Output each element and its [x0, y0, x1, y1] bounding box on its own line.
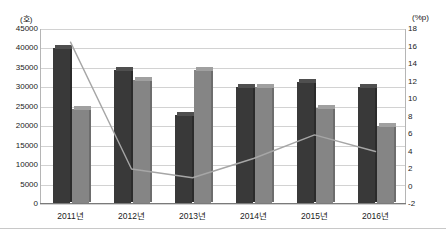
bar-top-cap [55, 45, 72, 49]
bar-top-cap [116, 67, 133, 71]
bar-face [236, 87, 253, 204]
plot-area [40, 29, 406, 204]
bar-top-cap [196, 67, 213, 71]
right-axis-tick-label: 16 [408, 43, 444, 51]
bar-top-cap [74, 106, 91, 110]
bar [297, 82, 314, 205]
bar-face [53, 48, 70, 204]
right-axis-line [405, 29, 406, 204]
gridline [40, 146, 406, 147]
left-axis-tick-label: 30000 [2, 83, 38, 91]
bar [377, 126, 394, 204]
bar-face [175, 115, 192, 204]
gridline [40, 185, 406, 186]
right-axis-tick-label: 4 [408, 148, 444, 156]
bar [358, 87, 375, 204]
bar-face [72, 109, 89, 204]
bar [53, 48, 70, 204]
bar-side [394, 124, 396, 202]
left-axis-tick-label: 45000 [2, 25, 38, 33]
left-axis-tick-label: 0 [2, 200, 38, 208]
bar [316, 108, 333, 204]
category-label: 2013년 [162, 209, 223, 221]
bar-top-cap [379, 123, 396, 127]
bar-face [133, 80, 150, 204]
bar [133, 80, 150, 204]
bar-face [255, 87, 272, 204]
bar-side [333, 106, 335, 202]
right-axis-tick-label: 8 [408, 113, 444, 121]
category-label: 2014년 [223, 209, 284, 221]
category-axis-labels: 2011년2012년2013년2014년2015년2016년 [40, 209, 406, 229]
bar-top-cap [177, 112, 194, 116]
bar-side [272, 85, 274, 202]
right-axis-tick-label: 14 [408, 60, 444, 68]
right-axis-tick-label: 12 [408, 78, 444, 86]
bottom-axis-line [40, 203, 406, 204]
bar [236, 87, 253, 204]
left-axis-tick-label: 40000 [2, 44, 38, 52]
right-axis-tick-label: 18 [408, 25, 444, 33]
bar-top-cap [238, 84, 255, 88]
right-axis-ticks: 181614121086420-2 [408, 0, 446, 243]
gridline [40, 87, 406, 88]
bar-face [297, 82, 314, 205]
gridline [40, 107, 406, 108]
category-label: 2012년 [101, 209, 162, 221]
bar-face [377, 126, 394, 204]
left-axis-ticks: 4500040000350003000025000200001500010000… [0, 0, 38, 243]
gridline [40, 165, 406, 166]
bar-side [150, 78, 152, 202]
bar-face [194, 70, 211, 204]
right-axis-tick-label: 2 [408, 165, 444, 173]
gridline [40, 68, 406, 69]
bar-face [316, 108, 333, 204]
bar-top-cap [257, 84, 274, 88]
gridline [40, 126, 406, 127]
bar-top-cap [299, 79, 316, 83]
right-axis-tick-label: 0 [408, 183, 444, 191]
category-label: 2016년 [345, 209, 406, 221]
right-axis-tick-label: -2 [408, 200, 444, 208]
bar [255, 87, 272, 204]
bar [72, 109, 89, 204]
left-axis-tick-label: 20000 [2, 122, 38, 130]
bar-side [211, 68, 213, 202]
category-label: 2011년 [40, 209, 101, 221]
right-axis-tick-label: 10 [408, 95, 444, 103]
bar-face [358, 87, 375, 204]
gridline [40, 48, 406, 49]
gridline [40, 204, 406, 205]
bar [114, 70, 131, 204]
gridline [40, 29, 406, 30]
bar-top-cap [318, 105, 335, 109]
left-axis-tick-label: 5000 [2, 181, 38, 189]
bar [194, 70, 211, 204]
chart-container: (호) (%p) 4500040000350003000025000200001… [0, 0, 446, 243]
bar-face [114, 70, 131, 204]
bar-top-cap [135, 77, 152, 81]
bar-top-cap [360, 84, 377, 88]
left-axis-tick-label: 15000 [2, 142, 38, 150]
left-axis-tick-label: 10000 [2, 161, 38, 169]
left-axis-tick-label: 25000 [2, 103, 38, 111]
category-label: 2015년 [284, 209, 345, 221]
left-axis-line [40, 29, 41, 204]
left-axis-tick-label: 35000 [2, 64, 38, 72]
right-axis-tick-label: 6 [408, 130, 444, 138]
bar-side [89, 107, 91, 202]
bar [175, 115, 192, 204]
chart-bottom-rule [0, 228, 446, 229]
line-series-layer [40, 29, 406, 204]
